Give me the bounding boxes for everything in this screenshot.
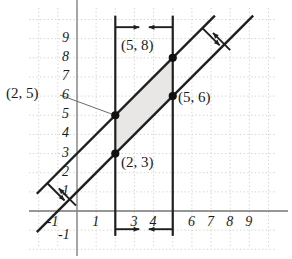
y-tick-label: 9	[62, 31, 69, 45]
point-label-5-6: (5, 6)	[178, 90, 211, 105]
x-tick-label: 9	[245, 215, 252, 229]
point-label-2-5: (2, 5)	[6, 86, 39, 101]
point-marker	[111, 149, 119, 157]
x-tick-label: -1	[47, 215, 59, 229]
y-tick-label: -1	[58, 228, 70, 242]
point-marker	[169, 92, 177, 100]
y-tick-label: 1	[62, 184, 69, 198]
y-tick-label: 5	[62, 107, 69, 121]
x-tick-label: 6	[188, 215, 195, 229]
x-tick-label: 3	[130, 215, 137, 229]
x-tick-label: 7	[207, 215, 214, 229]
y-tick-label: 7	[62, 69, 69, 83]
x-tick-label: 4	[150, 215, 157, 229]
point-label-2-3: (2, 3)	[121, 155, 154, 170]
point-label-5-8: (5, 8)	[121, 38, 154, 53]
x-tick-label: 8	[226, 215, 233, 229]
y-tick-label: 8	[62, 50, 69, 64]
y-tick-label: 3	[62, 146, 69, 160]
y-tick-label: 4	[62, 126, 69, 140]
y-tick-label: 2	[62, 165, 69, 179]
y-tick-label: 6	[62, 88, 69, 102]
point-marker	[169, 54, 177, 62]
point-marker	[111, 111, 119, 119]
graph-figure: (2, 5) (2, 3) (5, 8) (5, 6) -11346789987…	[0, 0, 292, 259]
x-tick-label: 1	[92, 215, 99, 229]
